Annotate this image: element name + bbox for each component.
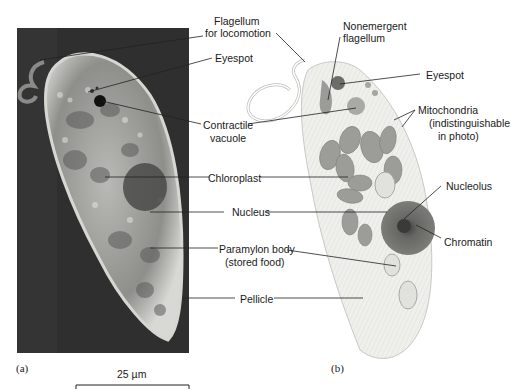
label-contractile-line2: vacuole <box>210 132 246 144</box>
label-chromatin: Chromatin <box>444 236 492 248</box>
drawing-panel-b <box>248 60 435 358</box>
label-nonemergent-line1: Nonemergent <box>343 20 407 32</box>
label-flagellum-line1: Flagellum <box>214 15 260 27</box>
scale-bar <box>76 385 189 389</box>
label-nucleus: Nucleus <box>232 206 270 218</box>
scale-bar-label: 25 µm <box>117 368 146 380</box>
label-mitochondria-line1: Mitochondria <box>418 104 478 116</box>
label-nonemergent-line2: flagellum <box>343 32 385 44</box>
panel-b-tag: (b) <box>331 362 344 374</box>
label-paramylon-line2: (stored food) <box>225 256 285 268</box>
label-eyespot-b: Eyespot <box>426 69 464 81</box>
micrograph-panel-a <box>17 28 189 353</box>
label-pellicle: Pellicle <box>240 293 273 305</box>
label-contractile-line1: Contractile <box>203 119 253 131</box>
label-paramylon-line1: Paramylon body <box>219 243 295 255</box>
label-flagellum-line2: for locomotion <box>205 27 271 39</box>
label-mitochondria-line2: (indistinguishable <box>429 117 510 129</box>
label-mitochondria-line3: in photo) <box>438 130 479 142</box>
label-nucleolus: Nucleolus <box>446 180 492 192</box>
figure-graphics <box>0 0 522 392</box>
label-chloroplast: Chloroplast <box>208 172 261 184</box>
label-eyespot-a: Eyespot <box>215 52 253 64</box>
panel-a-tag: (a) <box>16 362 28 374</box>
